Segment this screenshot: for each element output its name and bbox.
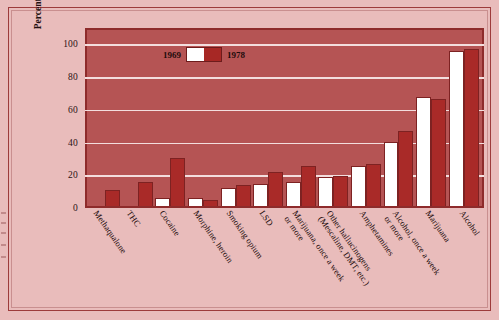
bar-1969: [221, 188, 236, 206]
bar-group: [317, 30, 350, 206]
x-axis-labels: MethaqualoneTHCCocaineMorphine, heroinSm…: [85, 209, 484, 314]
bar-chart: [85, 28, 484, 208]
bar-group: [447, 30, 480, 206]
y-tick-label-100: 100: [63, 39, 78, 49]
x-axis-label: Cocaine: [158, 209, 182, 238]
bar-group: [122, 30, 155, 206]
bar-1978: [398, 131, 413, 206]
bar-1978: [366, 164, 381, 206]
bar-1978: [203, 200, 218, 206]
bar-1969: [318, 177, 333, 206]
bar-group: [284, 30, 317, 206]
bar-1978: [301, 166, 316, 206]
legend-label-1969: 1969: [163, 50, 181, 60]
bar-1978: [105, 190, 120, 206]
page-canvas: 100806040200 Percentage 1969 1978 Methaq…: [0, 0, 499, 320]
bar-1978: [268, 172, 283, 206]
page-edge-artifact: [1, 212, 6, 214]
x-axis-label: Methaqualone: [91, 209, 128, 256]
bar-group: [382, 30, 415, 206]
x-axis-label: Marijuana: [424, 209, 453, 244]
y-tick-label-0: 0: [73, 203, 78, 213]
bar-1978: [138, 182, 153, 206]
legend-label-1978: 1978: [227, 50, 245, 60]
page-edge-artifact: [1, 232, 6, 234]
bar-series-container: [87, 30, 482, 206]
chart-legend: 1969 1978: [163, 47, 245, 62]
bar-1969: [416, 97, 431, 206]
bar-1978: [170, 158, 185, 206]
y-tick-label-80: 80: [68, 72, 78, 82]
bar-1969: [155, 198, 170, 206]
bar-1969: [253, 184, 268, 206]
legend-swatch-1978: [204, 48, 221, 61]
page-edge-artifact: [1, 256, 6, 258]
bar-1978: [431, 99, 446, 206]
legend-swatch-1969: [187, 48, 204, 61]
y-tick-label-20: 20: [68, 170, 78, 180]
bar-1969: [286, 182, 301, 206]
bar-1969: [351, 166, 366, 206]
legend-swatches: [186, 47, 222, 62]
bar-group: [415, 30, 448, 206]
bar-1969: [449, 51, 464, 206]
bar-1978: [464, 49, 479, 206]
y-tick-label-40: 40: [68, 138, 78, 148]
x-axis-label: THC: [124, 209, 142, 229]
bar-group: [252, 30, 285, 206]
y-axis: 100806040200: [52, 28, 82, 208]
bar-group: [89, 30, 122, 206]
bar-1969: [384, 142, 399, 206]
page-edge-artifact: [1, 222, 6, 224]
x-axis-label: Alcohol: [457, 209, 481, 238]
bar-1978: [333, 176, 348, 206]
page-edge-artifact: [1, 244, 6, 246]
y-tick-label-60: 60: [68, 105, 78, 115]
x-axis-label: LSD: [257, 209, 274, 228]
bar-1969: [188, 198, 203, 206]
bar-group: [350, 30, 383, 206]
bar-1978: [236, 185, 251, 206]
y-axis-title: Percentage: [33, 0, 43, 62]
